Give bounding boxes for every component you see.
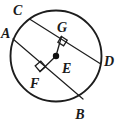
label-point-c: C: [13, 3, 23, 18]
label-point-d: D: [103, 54, 114, 69]
geometry-figure: A B C D E F G: [0, 0, 121, 121]
label-point-a: A: [0, 26, 10, 41]
circle-geometry-canvas: A B C D E F G: [0, 0, 121, 121]
label-point-e: E: [61, 61, 71, 76]
label-point-f: F: [29, 76, 40, 91]
chord-ab: [13, 39, 83, 99]
label-point-g: G: [57, 20, 67, 35]
center-point-dot: [53, 53, 59, 59]
label-point-b: B: [74, 107, 84, 122]
